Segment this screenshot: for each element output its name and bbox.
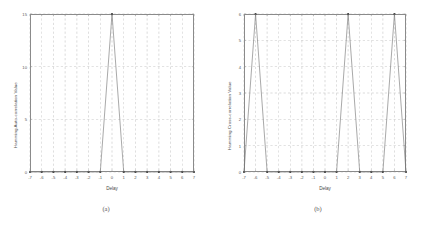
- y-tick-label: 6: [232, 12, 241, 17]
- x-tick-label: 3: [359, 175, 361, 180]
- x-axis-label-a: Delay: [30, 186, 194, 191]
- subplot-caption-a: (a): [0, 205, 212, 212]
- x-tick-label: 1: [335, 175, 337, 180]
- x-tick-label: -4: [277, 175, 281, 180]
- x-tick-label: -2: [87, 175, 91, 180]
- y-tick-label: 1: [232, 143, 241, 148]
- x-tick-label: 4: [370, 175, 372, 180]
- axes-a: [30, 14, 194, 172]
- x-tick-label: -7: [242, 175, 246, 180]
- y-tick-label: 10: [18, 64, 27, 69]
- x-tick-label: 0: [111, 175, 113, 180]
- x-tick-label: -5: [52, 175, 56, 180]
- x-tick-label: 6: [181, 175, 183, 180]
- subplot-caption-b: (b): [212, 205, 424, 212]
- axes-b: [244, 14, 406, 172]
- y-tick-label: 5: [232, 38, 241, 43]
- x-tick-label: -6: [40, 175, 44, 180]
- x-tick-label: 7: [405, 175, 407, 180]
- x-tick-label: 3: [146, 175, 148, 180]
- tickmarks-a: [30, 14, 194, 172]
- y-tick-label: 5: [18, 117, 27, 122]
- x-tick-label: 0: [324, 175, 326, 180]
- x-tick-label: 2: [347, 175, 349, 180]
- y-tick-label: 0: [18, 170, 27, 175]
- y-tick-label: 4: [232, 64, 241, 69]
- y-tick-label: 0: [232, 170, 241, 175]
- subplot-b: Hamming Cross-correlation Value -7-6-5-4…: [212, 0, 424, 230]
- x-tick-label: 5: [382, 175, 384, 180]
- x-tick-label: -6: [254, 175, 258, 180]
- x-tick-label: 4: [158, 175, 160, 180]
- subplot-a: Hamming Auto-correlation Value -7-6-5-4-…: [0, 0, 212, 230]
- x-tick-label: 5: [169, 175, 171, 180]
- x-tick-label: -1: [312, 175, 316, 180]
- tickmarks-b: [244, 14, 406, 172]
- x-tick-label: -4: [63, 175, 67, 180]
- x-tick-label: -5: [265, 175, 269, 180]
- figure-canvas: Hamming Auto-correlation Value -7-6-5-4-…: [0, 0, 424, 230]
- x-tick-label: -1: [98, 175, 102, 180]
- x-tick-label: 7: [193, 175, 195, 180]
- y-tick-label: 3: [232, 91, 241, 96]
- x-tick-label: 6: [393, 175, 395, 180]
- x-axis-label-b: Delay: [244, 186, 406, 191]
- x-tick-label: 1: [123, 175, 125, 180]
- x-tick-label: -2: [300, 175, 304, 180]
- x-tick-label: -3: [75, 175, 79, 180]
- y-axis-label-a: Hamming Auto-correlation Value: [13, 82, 18, 148]
- x-tick-label: -3: [288, 175, 292, 180]
- x-tick-label: -7: [28, 175, 32, 180]
- y-tick-label: 2: [232, 117, 241, 122]
- x-tick-label: 2: [134, 175, 136, 180]
- y-tick-label: 15: [18, 12, 27, 17]
